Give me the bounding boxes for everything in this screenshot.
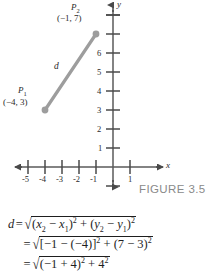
- equation-block: d=√(x2 − x1)2 + (y2 − y1)2 =√[−1 − (−4)]…: [0, 210, 217, 278]
- y-tick-label-4: 4: [97, 87, 101, 96]
- y-tick-label-2: 2: [97, 125, 101, 134]
- y-tick-label-3: 3: [97, 106, 101, 115]
- coordinate-plane-graphic: [0, 0, 217, 205]
- radical-sign-icon: √: [25, 217, 32, 232]
- segment-d: [45, 34, 96, 110]
- x-tick-label-minus5: -5: [22, 175, 29, 184]
- y-axis-label: y: [117, 0, 121, 9]
- figure-panel: y x 6 5 4 3 2 1 -5 -4 -3 -2 -1 1 P2 (−1,…: [0, 0, 217, 205]
- x-tick-label-1: 1: [128, 175, 132, 184]
- equation-line-1: d=√(x2 − x1)2 + (y2 − y1)2: [8, 216, 136, 234]
- point-label-p1-subscript: 1: [24, 90, 27, 97]
- point-label-p1: P1: [18, 86, 27, 97]
- segment-label-d: d: [54, 62, 59, 72]
- x-tick-label-minus1: -1: [90, 175, 97, 184]
- radical-sign-icon-3: √: [33, 257, 40, 272]
- point-marker-p1: [42, 107, 49, 114]
- y-tick-label-5: 5: [97, 68, 101, 77]
- equation-line-3-equals: =: [22, 257, 32, 271]
- radical-sign-icon-2: √: [33, 237, 40, 252]
- x-tick-label-minus2: -2: [73, 175, 80, 184]
- y-tick-label-1: 1: [98, 144, 102, 153]
- equation-line-2-equals: =: [22, 237, 32, 251]
- figure-caption: FIGURE 3.5: [139, 183, 206, 195]
- x-axis-label: x: [166, 161, 170, 170]
- equation-line-1-radicand: (x2 − x1)2 + (y2 − y1)2: [31, 216, 136, 234]
- y-tick-label-6: 6: [97, 49, 101, 58]
- x-tick-label-minus3: -3: [56, 175, 63, 184]
- equation-line-2-radicand: [−1 − (−4)]2 + (7 − 3)2: [39, 236, 153, 251]
- equation-line-2: =√[−1 − (−4)]2 + (7 − 3)2: [22, 236, 153, 251]
- equation-line-1-equals: =: [14, 217, 24, 231]
- point-marker-p2: [93, 31, 100, 38]
- equation-line-3: =√(−1 + 4)2 + 42: [22, 256, 110, 271]
- equation-line-3-radicand: (−1 + 4)2 + 42: [39, 256, 110, 271]
- x-tick-label-minus4: -4: [39, 175, 46, 184]
- point-coord-p1: (−4, 3): [3, 98, 28, 107]
- point-coord-p2: (−1, 7): [57, 14, 82, 23]
